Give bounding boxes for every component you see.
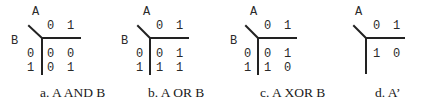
cell-0-0: 0 xyxy=(47,48,54,60)
column-variable-label: A xyxy=(32,6,39,18)
truth-table-or: A B 0 1 0 1 0 1 1 1 b. A OR B xyxy=(110,0,220,102)
row-header-1: 1 xyxy=(244,62,251,74)
cell-0-1: 0 xyxy=(393,48,400,60)
column-variable-label: A xyxy=(355,6,362,18)
caption: d. A’ xyxy=(375,86,401,100)
cell-1-0: 1 xyxy=(156,62,163,74)
row-variable-label: B xyxy=(230,35,237,47)
row-header-0: 0 xyxy=(244,48,251,60)
truth-table-xor: A B 0 1 0 1 0 1 1 0 c. A XOR B xyxy=(220,0,330,102)
cell-1-0: 0 xyxy=(47,62,54,74)
cell-0-0: 0 xyxy=(156,48,163,60)
cell-1-1: 1 xyxy=(176,62,183,74)
column-variable-label: A xyxy=(143,6,150,18)
row-header-0: 0 xyxy=(27,48,34,60)
cell-0-0: 0 xyxy=(264,48,271,60)
column-header-0: 0 xyxy=(264,20,271,32)
cell-1-0: 1 xyxy=(264,62,271,74)
column-header-0: 0 xyxy=(156,20,163,32)
row-header-1: 1 xyxy=(136,62,143,74)
column-variable-label: A xyxy=(250,6,257,18)
row-variable-label: B xyxy=(121,35,128,47)
column-header-1: 1 xyxy=(176,20,183,32)
cell-1-1: 0 xyxy=(284,62,291,74)
caption: c. A XOR B xyxy=(260,86,325,100)
cell-0-0: 1 xyxy=(373,48,380,60)
caption: a. A AND B xyxy=(40,86,105,100)
cell-0-1: 1 xyxy=(284,48,291,60)
column-header-1: 1 xyxy=(284,20,291,32)
truth-table-and: A B 0 1 0 1 0 0 0 1 a. A AND B xyxy=(0,0,110,102)
row-header-1: 1 xyxy=(27,62,34,74)
cell-1-1: 1 xyxy=(67,62,74,74)
row-variable-label: B xyxy=(11,35,18,47)
cell-0-1: 0 xyxy=(67,48,74,60)
truth-table-not: A 0 1 1 0 d. A’ xyxy=(330,0,422,102)
row-header-0: 0 xyxy=(136,48,143,60)
column-header-0: 0 xyxy=(373,20,380,32)
column-header-1: 1 xyxy=(393,20,400,32)
column-header-0: 0 xyxy=(47,20,54,32)
cell-0-1: 1 xyxy=(176,48,183,60)
caption: b. A OR B xyxy=(148,86,204,100)
column-header-1: 1 xyxy=(67,20,74,32)
